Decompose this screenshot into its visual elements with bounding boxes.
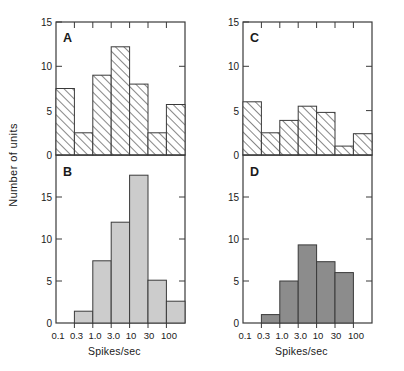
figure-container: Number of units bbox=[0, 0, 404, 371]
bar bbox=[148, 133, 166, 155]
bar bbox=[166, 301, 185, 323]
bar bbox=[130, 84, 148, 155]
bar bbox=[74, 133, 92, 155]
panel-c-ytick-5: 5 bbox=[233, 106, 239, 117]
xtick-label: 100 bbox=[161, 330, 177, 341]
panel-d-x-ticklabels: 0.1 0.3 1.0 3.0 10 30 100 bbox=[238, 330, 364, 341]
bar bbox=[335, 146, 353, 155]
xtick-label: 30 bbox=[331, 330, 342, 341]
xtick-label: 10 bbox=[126, 330, 137, 341]
panel-c-top-ticks bbox=[261, 22, 353, 28]
panel-b-y-ticks-right bbox=[179, 197, 185, 281]
panel-b-y-ticks bbox=[56, 197, 62, 281]
panel-c-label: C bbox=[250, 31, 259, 45]
panel-d-ytick-15: 15 bbox=[228, 192, 240, 203]
xtick-label: 30 bbox=[144, 330, 155, 341]
bar bbox=[74, 311, 92, 323]
panel-c-ytick-0: 0 bbox=[233, 150, 239, 161]
bar bbox=[261, 133, 279, 155]
bar bbox=[298, 245, 316, 323]
panel-a-ytick-15: 15 bbox=[41, 17, 53, 28]
bar bbox=[148, 280, 166, 323]
x-axis-title-left: Spikes/sec bbox=[88, 345, 141, 357]
xtick-label: 1.0 bbox=[88, 330, 101, 341]
bar bbox=[335, 273, 353, 323]
xtick-label: 1.0 bbox=[275, 330, 288, 341]
bar bbox=[166, 105, 185, 156]
bar bbox=[317, 262, 335, 323]
xtick-label: 3.0 bbox=[294, 330, 307, 341]
bar bbox=[298, 106, 316, 155]
bar bbox=[317, 112, 335, 155]
panel-a-y-ticks-right bbox=[179, 66, 185, 110]
xtick-label: 0.3 bbox=[70, 330, 83, 341]
bar bbox=[261, 315, 279, 323]
panel-a: 15 10 5 0 A bbox=[41, 17, 185, 161]
panel-d-label: D bbox=[250, 165, 259, 179]
panel-a-ytick-10: 10 bbox=[41, 61, 53, 72]
bar bbox=[280, 281, 298, 323]
bar bbox=[93, 75, 111, 155]
panel-d-x-ticks bbox=[261, 323, 353, 328]
panel-b-ytick-15: 15 bbox=[41, 192, 53, 203]
bar bbox=[93, 261, 111, 323]
bar bbox=[111, 222, 129, 323]
panel-c: 15 10 5 0 C bbox=[228, 17, 372, 161]
xtick-label: 0.1 bbox=[51, 330, 64, 341]
panel-a-ytick-0: 0 bbox=[46, 150, 52, 161]
xtick-label: 3.0 bbox=[107, 330, 120, 341]
bar bbox=[111, 47, 129, 155]
panel-d-bars bbox=[261, 245, 353, 323]
panel-b-x-ticks bbox=[74, 323, 166, 328]
panel-b-ytick-10: 10 bbox=[41, 234, 53, 245]
panel-c-y-ticks bbox=[243, 22, 249, 111]
bar bbox=[353, 134, 372, 155]
bar bbox=[280, 120, 298, 155]
panel-d-y-ticks bbox=[243, 197, 249, 281]
xtick-label: 0.3 bbox=[257, 330, 270, 341]
xtick-label: 100 bbox=[348, 330, 364, 341]
xtick-label: 0.1 bbox=[238, 330, 251, 341]
panel-b-x-ticklabels: 0.1 0.3 1.0 3.0 10 30 100 bbox=[51, 330, 177, 341]
x-axis-title-right: Spikes/sec bbox=[275, 345, 328, 357]
panel-b-ytick-0: 0 bbox=[46, 318, 52, 329]
figure-svg: 15 10 5 0 A bbox=[0, 0, 404, 371]
panel-c-ytick-15: 15 bbox=[228, 17, 240, 28]
panel-c-y-ticks-right bbox=[366, 66, 372, 110]
panel-a-bars bbox=[56, 47, 185, 155]
panel-b-ytick-5: 5 bbox=[46, 276, 52, 287]
panel-d-ytick-10: 10 bbox=[228, 234, 240, 245]
panel-a-ytick-5: 5 bbox=[46, 106, 52, 117]
panel-d-ytick-5: 5 bbox=[233, 276, 239, 287]
panel-a-top-ticks bbox=[74, 22, 166, 28]
panel-a-label: A bbox=[63, 31, 72, 45]
xtick-label: 10 bbox=[313, 330, 324, 341]
panel-c-ytick-10: 10 bbox=[228, 61, 240, 72]
panel-c-bars bbox=[243, 102, 372, 155]
bar bbox=[243, 102, 261, 155]
panel-d-ytick-0: 0 bbox=[233, 318, 239, 329]
bar bbox=[56, 89, 74, 156]
panel-d: 15 10 5 0 D 0.1 0.3 bbox=[228, 155, 372, 341]
panel-b: 15 10 5 0 B bbox=[41, 155, 185, 341]
panel-d-y-ticks-right bbox=[366, 197, 372, 281]
panel-b-label: B bbox=[63, 165, 72, 179]
panel-b-bars bbox=[74, 175, 185, 323]
bar bbox=[130, 175, 148, 323]
